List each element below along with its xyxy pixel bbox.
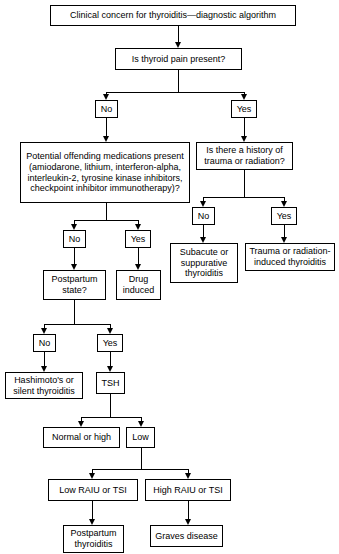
node-postpartum-state: Postpartum state?	[43, 270, 106, 300]
edge-pain-stem	[178, 70, 179, 92]
edge-highraiu-to-graves	[188, 501, 189, 519]
node-low-label: Low	[132, 432, 149, 443]
node-tsh: TSH	[96, 372, 125, 394]
edge-pp-yes-to-tsh	[110, 352, 111, 366]
edge-yes-to-trauma	[244, 118, 245, 136]
node-postpartum-thyroiditis: Postpartum thyroiditis	[63, 525, 124, 553]
node-trauma-no-label: No	[198, 211, 210, 222]
node-drug-induced-label: Drug induced	[120, 274, 157, 295]
node-graves-label: Graves disease	[155, 531, 218, 542]
node-meds-no: No	[63, 230, 86, 248]
thyroiditis-diagnostic-flowchart: Clinical concern for thyroiditis—diagnos…	[0, 0, 339, 554]
node-trauma-no: No	[192, 207, 215, 225]
node-thyroid-pain-label: Is thyroid pain present?	[132, 54, 226, 65]
node-title-box: Clinical concern for thyroiditis—diagnos…	[50, 5, 296, 26]
node-trauma-yes: Yes	[271, 207, 297, 225]
node-high-raiu-label: High RAIU or TSI	[153, 485, 222, 496]
node-hashimotos: Hashimoto's or silent thyroiditis	[5, 372, 83, 399]
node-hashimotos-label: Hashimoto's or silent thyroiditis	[9, 375, 79, 396]
node-postpartum-state-label: Postpartum state?	[47, 274, 102, 295]
edge-no-to-medications	[106, 118, 107, 136]
edge-pp-no-to-hashimotos	[44, 352, 45, 366]
node-trauma-induced: Trauma or radiation-induced thyroiditis	[245, 243, 335, 271]
node-trauma-history: Is there a history of trauma or radiatio…	[196, 142, 293, 170]
edge-trauma-yes-to-induced	[284, 225, 285, 237]
node-drug-induced: Drug induced	[116, 270, 161, 300]
node-title-box-label: Clinical concern for thyroiditis—diagnos…	[70, 10, 276, 21]
node-low-raiu: Low RAIU or TSI	[48, 479, 138, 501]
node-pp-yes-label: Yes	[103, 338, 118, 349]
node-medications: Potential offending medications present …	[20, 142, 190, 203]
node-high-raiu: High RAIU or TSI	[145, 479, 231, 501]
node-subacute-label: Subacute or suppurative thyroiditis	[174, 247, 234, 279]
node-pain-yes: Yes	[231, 100, 257, 118]
edge-trauma-no-to-subacute	[203, 225, 204, 237]
node-subacute: Subacute or suppurative thyroiditis	[170, 243, 238, 283]
edge-medications-bus	[74, 220, 138, 221]
edge-tsh-stem	[110, 394, 111, 417]
node-pp-no: No	[33, 334, 56, 352]
node-meds-yes: Yes	[125, 230, 151, 248]
edge-title-to-pain	[178, 26, 179, 43]
node-pain-no: No	[95, 100, 118, 118]
edge-medications-stem	[106, 203, 107, 220]
node-tsh-label: TSH	[102, 378, 120, 389]
node-meds-no-label: No	[69, 234, 81, 245]
node-normal-or-high: Normal or high	[43, 427, 120, 448]
node-pain-yes-label: Yes	[237, 104, 252, 115]
node-meds-yes-label: Yes	[131, 234, 146, 245]
edge-low-bus	[92, 469, 188, 470]
edge-tsh-bus	[81, 417, 141, 418]
node-postpartum-thyroiditis-label: Postpartum thyroiditis	[67, 528, 120, 549]
node-trauma-induced-label: Trauma or radiation-induced thyroiditis	[249, 246, 331, 267]
edge-postpartum-stem	[74, 300, 75, 324]
node-pp-yes: Yes	[97, 334, 123, 352]
node-trauma-yes-label: Yes	[277, 211, 292, 222]
node-low-raiu-label: Low RAIU or TSI	[59, 485, 126, 496]
edge-postpartum-bus	[44, 324, 110, 325]
node-thyroid-pain: Is thyroid pain present?	[115, 48, 242, 70]
node-trauma-history-label: Is there a history of trauma or radiatio…	[200, 145, 289, 166]
node-graves: Graves disease	[150, 525, 223, 547]
edge-trauma-stem	[244, 170, 245, 197]
edge-trauma-bus	[203, 197, 284, 198]
edge-low-stem	[141, 448, 142, 469]
edge-meds-no-to-postpartum	[74, 248, 75, 264]
edge-meds-yes-to-drug	[138, 248, 139, 264]
node-low: Low	[126, 427, 155, 448]
edge-pain-bus	[106, 92, 244, 93]
edge-lowraiu-to-ppthyroiditis	[92, 501, 93, 519]
node-normal-or-high-label: Normal or high	[52, 432, 111, 443]
node-pp-no-label: No	[39, 338, 51, 349]
node-medications-label: Potential offending medications present …	[24, 151, 186, 193]
node-pain-no-label: No	[101, 104, 113, 115]
